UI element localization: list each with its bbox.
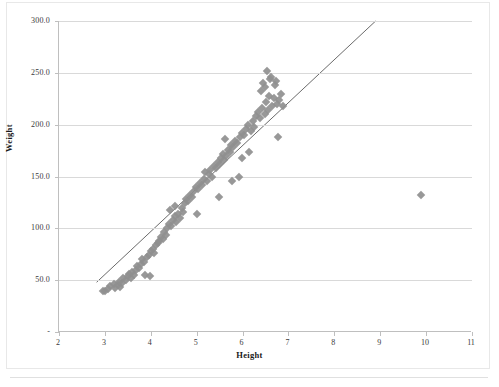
x-tick-label: 5 bbox=[186, 338, 206, 347]
x-tick-label: 11 bbox=[461, 338, 481, 347]
y-tick-mark bbox=[55, 21, 59, 22]
y-tick-label: 250.0 bbox=[4, 68, 50, 77]
x-tick-label: 3 bbox=[94, 338, 114, 347]
y-tick-label: 100.0 bbox=[4, 223, 50, 232]
y-tick-mark bbox=[55, 280, 59, 281]
x-tick-label: 4 bbox=[140, 338, 160, 347]
x-tick-label: 8 bbox=[323, 338, 343, 347]
x-tick-label: 7 bbox=[277, 338, 297, 347]
x-tick-mark bbox=[380, 332, 381, 336]
x-tick-label: 10 bbox=[415, 338, 435, 347]
x-tick-label: 6 bbox=[232, 338, 252, 347]
y-tick-label: - bbox=[4, 327, 50, 336]
x-tick-mark bbox=[472, 332, 473, 336]
scatter-chart: Weight Height -50.0100.0150.0200.0250.03… bbox=[0, 0, 499, 387]
x-tick-label: 9 bbox=[369, 338, 389, 347]
trendline-path bbox=[97, 21, 376, 282]
y-tick-label: 50.0 bbox=[4, 275, 50, 284]
x-tick-mark bbox=[426, 332, 427, 336]
x-axis-title: Height bbox=[0, 350, 499, 360]
y-tick-mark bbox=[55, 125, 59, 126]
x-tick-mark bbox=[151, 332, 152, 336]
gridline-y bbox=[59, 125, 472, 126]
y-tick-mark bbox=[55, 73, 59, 74]
x-tick-mark bbox=[334, 332, 335, 336]
gridline-y bbox=[59, 21, 472, 22]
y-tick-label: 200.0 bbox=[4, 120, 50, 129]
gridline-y bbox=[59, 228, 472, 229]
y-tick-label: 300.0 bbox=[4, 16, 50, 25]
x-tick-mark bbox=[59, 332, 60, 336]
y-tick-mark bbox=[55, 177, 59, 178]
x-tick-mark bbox=[105, 332, 106, 336]
x-tick-mark bbox=[243, 332, 244, 336]
x-tick-mark bbox=[288, 332, 289, 336]
y-tick-label: 150.0 bbox=[4, 172, 50, 181]
y-tick-mark bbox=[55, 228, 59, 229]
figure-divider bbox=[10, 377, 488, 378]
x-tick-mark bbox=[197, 332, 198, 336]
x-tick-label: 2 bbox=[48, 338, 68, 347]
gridline-y bbox=[59, 177, 472, 178]
